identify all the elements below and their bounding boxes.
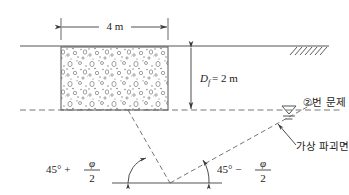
water-note-label: ②번 문제 <box>303 96 346 108</box>
angle-label-right: 45° − φ 2 <box>217 157 271 184</box>
width-dimension-label: 4 m <box>107 20 124 32</box>
angle-arc-left <box>128 158 146 183</box>
depth-label-symbol: D <box>199 72 208 84</box>
depth-label-value: = 2 m <box>212 72 238 84</box>
angle-arc-left-path <box>128 158 146 183</box>
ground-hatching-icon <box>290 47 327 55</box>
angle-label-left: 45° + φ 2 <box>46 157 100 184</box>
angle-right-base-text: 45° − <box>217 163 241 175</box>
width-dimension: 4 m <box>61 18 168 40</box>
denominator-left: 2 <box>89 172 95 184</box>
bearing-capacity-diagram: 4 m D f = 2 m ②번 문제 <box>0 0 349 195</box>
depth-dimension: D f = 2 m <box>191 48 238 109</box>
phi-symbol-left: φ <box>89 157 95 169</box>
angle-left-base-text: 45° + <box>46 163 70 175</box>
denominator-right: 2 <box>260 172 266 184</box>
footing-block <box>61 47 168 110</box>
phi-symbol-right: φ <box>260 157 266 169</box>
leader-line <box>278 124 296 145</box>
footing-fill <box>61 47 168 110</box>
water-note: ②번 문제 <box>303 96 346 108</box>
failure-surface-label: 가상 파괴면 <box>296 140 349 152</box>
failure-surface-note: 가상 파괴면 <box>278 124 349 152</box>
failure-line-left <box>128 110 170 183</box>
